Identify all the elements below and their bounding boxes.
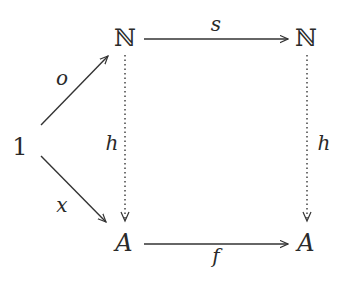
object-a-left: A — [115, 231, 132, 255]
label-h-left: h — [106, 133, 119, 153]
label-h-right: h — [318, 133, 331, 153]
object-a-right: A — [297, 231, 314, 255]
label-s: s — [211, 14, 221, 34]
object-naturals-right: ℕ — [295, 26, 317, 50]
object-naturals-left: ℕ — [114, 26, 136, 50]
object-one: 1 — [12, 135, 27, 159]
label-f: f — [212, 246, 219, 266]
arrow-o — [41, 56, 108, 125]
label-x: x — [56, 195, 67, 215]
label-o: o — [56, 68, 68, 88]
arrow-x — [41, 156, 106, 222]
